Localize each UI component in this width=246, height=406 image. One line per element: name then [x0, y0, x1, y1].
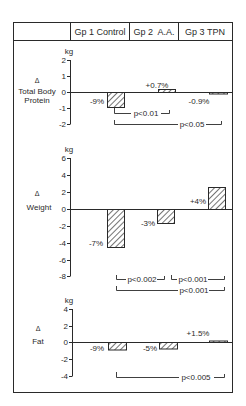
y-unit-label: kg	[65, 47, 73, 56]
bar-gp1	[108, 210, 125, 248]
panel-label: Protein	[24, 96, 49, 105]
bar-label-gp2: +0.7%	[146, 81, 169, 90]
y-tick-label: 1	[62, 72, 67, 81]
bar-gp1	[108, 93, 125, 108]
panel-label: Total Body	[18, 87, 55, 96]
bar-gp1	[109, 343, 127, 351]
panel-label: Fat	[32, 337, 44, 346]
delta-symbol: Δ	[35, 77, 40, 84]
bar-label-gp2: -3%	[141, 219, 155, 228]
y-tick-label: 6	[62, 154, 67, 163]
bar-gp2	[158, 210, 175, 224]
y-ticks	[67, 159, 71, 277]
y-tick-label: 0	[62, 88, 67, 97]
bar-gp3	[210, 93, 228, 95]
delta-symbol: Δ	[36, 325, 41, 332]
y-tick-label: -1	[59, 104, 67, 113]
y-tick-label: 2	[62, 188, 67, 197]
y-tick-label: -2	[59, 120, 67, 129]
bar-gp3	[210, 341, 228, 343]
p-value: p<0.001	[179, 286, 209, 295]
p-value: p<0.001	[178, 275, 208, 284]
p-value: p<0.002	[127, 275, 157, 284]
y-unit-label: kg	[65, 296, 73, 305]
bar-label-gp3: +1.5%	[187, 329, 210, 338]
bar-label-gp1: -9%	[90, 344, 104, 353]
y-tick-label: 2	[62, 56, 67, 65]
panel-weight: Δ Weight kg 6 4 2 0 -2 -4 -6 -8 -7% -3% …	[27, 145, 233, 295]
header-col-gp1: Gp 1 Control	[74, 27, 125, 37]
header-col-gp3: Gp 3 TPN	[185, 27, 225, 37]
significance-bracket	[115, 120, 222, 125]
y-tick-label: -8	[59, 272, 67, 281]
y-tick-label: -2	[61, 355, 69, 364]
bar-label-gp3: +4%	[190, 197, 206, 206]
bar-label-gp1: -9%	[90, 97, 104, 106]
y-unit-label: kg	[65, 145, 73, 154]
y-ticks	[69, 310, 73, 377]
y-tick-label: 0	[64, 338, 69, 347]
header-col-gp2: Gp 2 A.A.	[133, 27, 174, 37]
y-tick-label: 4	[62, 171, 67, 180]
y-tick-label: 4	[64, 305, 69, 314]
y-tick-label: -4	[61, 372, 69, 381]
bar-label-gp1: -7%	[89, 239, 103, 248]
delta-symbol: Δ	[35, 190, 40, 197]
y-tick-label: 2	[64, 322, 69, 331]
bar-gp3	[209, 188, 226, 210]
p-value: p<0.005	[181, 373, 211, 382]
y-ticks	[67, 61, 71, 125]
bar-label-gp3: -0.9%	[189, 97, 210, 106]
bar-gp2	[160, 343, 178, 350]
panel-label: Weight	[27, 203, 53, 212]
figure: Gp 1 Control Gp 2 A.A. Gp 3 TPN Δ Total …	[0, 0, 246, 406]
panel-fat: Δ Fat kg 4 2 0 -2 -4 -9% -5% +1.5% p<0.0…	[32, 296, 233, 382]
y-tick-label: -4	[59, 239, 67, 248]
bar-label-gp2: -5%	[143, 344, 157, 353]
y-tick-label: 0	[62, 205, 67, 214]
p-value: p<0.05	[180, 120, 205, 129]
panel-total-body-protein: Δ Total Body Protein kg 2 1 0 -1 -2 -9% …	[18, 47, 233, 129]
p-value: p<0.01	[134, 109, 159, 118]
y-tick-label: -6	[59, 256, 67, 265]
y-tick-label: -2	[59, 222, 67, 231]
